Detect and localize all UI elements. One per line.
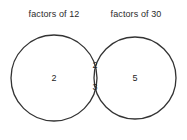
intersection-region-value-first: 2 [83, 60, 107, 70]
right-only-region-value: 5 [115, 73, 155, 83]
left-only-region-value: 2 [34, 73, 74, 83]
venn-circles-graphic [0, 0, 187, 140]
venn-diagram: factors of 12 factors of 30 2 2 3 5 [0, 0, 187, 140]
intersection-region-value-second: 3 [83, 82, 107, 92]
